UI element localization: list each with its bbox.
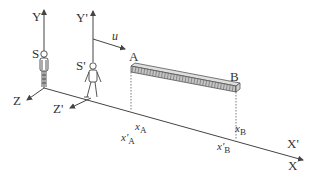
x-axis xyxy=(44,88,303,160)
frame-s-prime-label: S' xyxy=(76,58,86,73)
z-prime-axis xyxy=(70,98,91,108)
rod-end-a-label: A xyxy=(129,49,139,64)
x-prime-axis-label: X' xyxy=(287,136,299,151)
z-axis-label: Z xyxy=(13,93,21,108)
y-axis-label: Y xyxy=(32,9,42,24)
frame-s-label: S xyxy=(32,46,39,61)
x-axis-label: X xyxy=(288,158,298,173)
velocity-label: u xyxy=(112,29,118,43)
coord-xpb: x'B xyxy=(216,140,230,155)
rod xyxy=(131,63,240,92)
y-prime-axis-label: Y' xyxy=(76,10,88,25)
observer-s-prime-icon xyxy=(84,63,101,97)
diagram-canvas: Y S Z X' X Y' u S' xyxy=(0,0,314,175)
rod-end-b-label: B xyxy=(230,69,239,84)
velocity-arrow xyxy=(93,39,125,49)
coord-xpa: x'A xyxy=(120,131,135,146)
z-axis-s xyxy=(27,88,44,100)
coord-xa: xA xyxy=(134,120,147,135)
z-prime-axis-label: Z' xyxy=(53,101,63,116)
